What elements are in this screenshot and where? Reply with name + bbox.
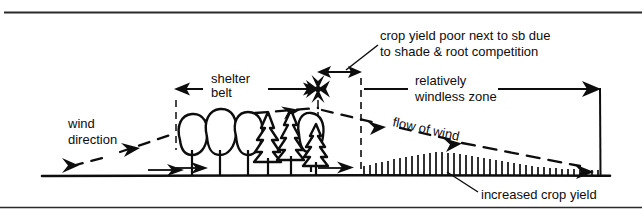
wind-direction-label-line1: wind bbox=[67, 116, 95, 131]
shade-note-leader-line bbox=[346, 45, 378, 70]
wind-arrowhead-1 bbox=[62, 158, 79, 173]
tree-deciduous-1 bbox=[179, 114, 208, 175]
windless-zone-label-line1: relatively bbox=[415, 73, 467, 88]
crop-field-hatching bbox=[364, 152, 598, 175]
flow-of-wind-label: flow of wind bbox=[391, 114, 461, 143]
shade-note-label-line2: to shade & root competition bbox=[380, 44, 538, 59]
diagram-canvas: wind direction shelter belt crop yield p… bbox=[0, 0, 642, 221]
tree-deciduous-2 bbox=[206, 109, 237, 175]
shelterbelt-diagram: wind direction shelter belt crop yield p… bbox=[0, 0, 642, 221]
wind-arrowhead-5 bbox=[367, 121, 386, 135]
increased-crop-yield-label: increased crop yield bbox=[481, 187, 597, 202]
shelter-belt-label-line2: belt bbox=[211, 85, 232, 100]
tree-deciduous-3 bbox=[235, 112, 263, 175]
shade-note-label-line1: crop yield poor next to sb due bbox=[380, 28, 551, 43]
windless-zone-label-line2: windless zone bbox=[414, 89, 497, 104]
windless-zone-right-boundary bbox=[600, 88, 601, 176]
shelter-belt-label-line1: shelter bbox=[211, 71, 251, 86]
wind-direction-label-line2: direction bbox=[68, 132, 117, 147]
ground-line bbox=[42, 175, 610, 176]
